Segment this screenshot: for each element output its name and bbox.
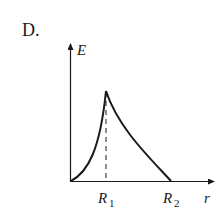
field-strength-graph: D. E r R 1 R 2 — [0, 0, 224, 212]
tick-r1-sub: 1 — [109, 197, 115, 209]
tick-r2-sub: 2 — [174, 197, 180, 209]
option-label: D. — [22, 20, 40, 40]
tick-r2: R 2 — [162, 190, 180, 209]
tick-r2-main: R — [162, 190, 172, 206]
x-axis-label: r — [204, 190, 210, 206]
tick-r1-main: R — [97, 190, 107, 206]
field-curve — [71, 91, 171, 181]
y-axis-label: E — [76, 42, 86, 58]
tick-r1: R 1 — [97, 190, 115, 209]
